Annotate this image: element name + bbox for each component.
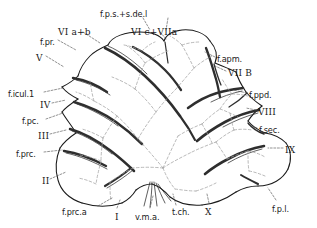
label-f-prc: f.prc. bbox=[16, 150, 36, 158]
label-fps-sdel: f.p.s.+s.de.l bbox=[100, 10, 147, 18]
velum-fan bbox=[144, 182, 171, 207]
label-i: I bbox=[115, 213, 119, 222]
label-vi-a-b: VI a+b bbox=[58, 28, 91, 37]
label-iii: III bbox=[38, 132, 49, 141]
label-iv: IV bbox=[40, 101, 50, 110]
label-x: X bbox=[205, 208, 212, 217]
label-t-ch: t.ch. bbox=[172, 208, 190, 216]
label-vi-c-viia: VI c+VIIa bbox=[131, 28, 177, 37]
label-f-p-l: f.p.l. bbox=[272, 205, 289, 213]
label-f-apm: f.apm. bbox=[217, 55, 242, 63]
label-ii: II bbox=[42, 177, 50, 186]
label-f-icul-1: f.icul.1 bbox=[8, 90, 34, 98]
label-f-ppd: f.ppd. bbox=[249, 91, 271, 99]
vermis-outline bbox=[56, 30, 290, 206]
label-viii: VIII bbox=[258, 108, 276, 117]
label-f-prc-a: f.prc.a bbox=[62, 208, 87, 216]
label-v: V bbox=[36, 54, 43, 63]
label-v-m-a: v.m.a. bbox=[135, 213, 159, 221]
label-f-sec: f.sec. bbox=[259, 126, 280, 134]
label-f-pr: f.pr. bbox=[40, 38, 55, 46]
label-f-pc: f.pc. bbox=[22, 117, 39, 125]
label-vii-b: VII B bbox=[228, 69, 252, 78]
label-ix: IX bbox=[285, 146, 295, 155]
